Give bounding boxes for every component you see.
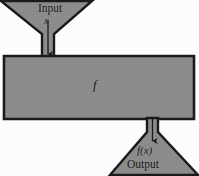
output-expression-label: f(x) [137, 145, 152, 156]
machine-body-shape [4, 56, 194, 119]
diagram-canvas [0, 0, 199, 176]
output-label: Output [127, 159, 159, 171]
input-variable-label: x [44, 16, 48, 26]
function-machine-diagram: Input x f f(x) Output [0, 0, 199, 176]
input-label: Input [38, 3, 62, 15]
function-label: f [93, 78, 97, 91]
